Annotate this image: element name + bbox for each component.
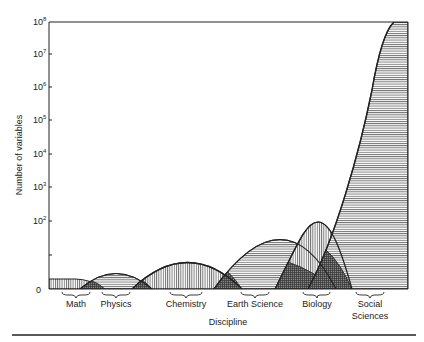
ytick-1e7: 107 bbox=[33, 48, 47, 59]
label-physics: Physics bbox=[100, 299, 132, 309]
brace-math bbox=[62, 292, 90, 298]
brace-chemistry bbox=[170, 292, 202, 298]
brace-biology bbox=[303, 292, 330, 298]
ytick-1e5: 105 bbox=[33, 114, 47, 125]
label-math: Math bbox=[66, 299, 86, 309]
ytick-1e8: 108 bbox=[33, 16, 47, 27]
y-axis-label: Number of variables bbox=[14, 114, 24, 195]
label-social-sciences-1: Social bbox=[358, 299, 383, 309]
x-axis-label: Discipline bbox=[209, 317, 248, 327]
brace-physics bbox=[102, 292, 130, 298]
ytick-0: 0 bbox=[36, 285, 41, 295]
label-chemistry: Chemistry bbox=[166, 299, 207, 309]
chart: 108 107 106 105 104 103 102 0 Number of … bbox=[0, 0, 424, 342]
brace-social bbox=[356, 292, 384, 298]
ytick-1e2: 102 bbox=[33, 215, 47, 226]
brace-earth bbox=[241, 292, 269, 298]
label-biology: Biology bbox=[302, 299, 332, 309]
label-social-sciences-2: Sciences bbox=[352, 311, 389, 321]
ytick-1e4: 104 bbox=[33, 148, 47, 159]
ytick-1e6: 106 bbox=[33, 81, 47, 92]
label-earth-science: Earth Science bbox=[227, 299, 283, 309]
ytick-1e3: 103 bbox=[33, 181, 47, 192]
